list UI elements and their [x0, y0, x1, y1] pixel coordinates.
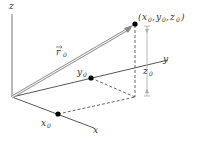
dashed-y0-to-base: [91, 78, 135, 97]
svg-text:): ): [180, 12, 185, 22]
svg-text:z: z: [142, 66, 148, 76]
y-axis-label: y: [162, 54, 169, 64]
svg-text:x: x: [41, 118, 46, 128]
svg-text:0: 0: [63, 51, 67, 58]
svg-text:0: 0: [149, 70, 153, 77]
z0-label: z 0: [142, 66, 153, 77]
point-x0: [55, 111, 60, 116]
x-axis: [12, 97, 94, 128]
x-axis-label: x: [93, 125, 98, 135]
coordinate-diagram: z y x r 0 y 0 x 0 z 0 ( x 0 , y 0 ,: [0, 0, 200, 145]
vector-label: r 0: [56, 46, 67, 59]
position-vector: [12, 25, 133, 97]
z-axis-label: z: [8, 1, 14, 11]
y0-label: y 0: [76, 67, 87, 78]
svg-text:y: y: [155, 12, 162, 22]
point-r0: [132, 21, 137, 26]
svg-text:y: y: [76, 67, 83, 77]
svg-text:,: ,: [166, 12, 169, 22]
svg-text:x: x: [142, 12, 147, 22]
x0-label: x 0: [41, 118, 51, 129]
svg-text:0: 0: [83, 71, 87, 78]
svg-text:r: r: [56, 47, 61, 57]
point-coordinates-label: ( x 0 , y 0 , z 0 ): [138, 12, 185, 23]
svg-text:z: z: [169, 12, 175, 22]
point-y0: [88, 75, 93, 80]
dashed-x0-to-base: [58, 97, 135, 114]
diagram-svg: z y x r 0 y 0 x 0 z 0 ( x 0 , y 0 ,: [0, 0, 200, 145]
svg-text:0: 0: [176, 16, 180, 23]
svg-text:0: 0: [47, 122, 51, 129]
svg-text:,: ,: [152, 12, 155, 22]
